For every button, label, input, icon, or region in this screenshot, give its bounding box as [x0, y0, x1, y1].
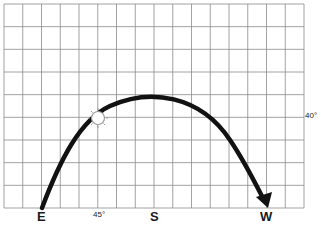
sun-icon	[88, 108, 108, 128]
sun-path-diagram	[0, 0, 321, 227]
east-label: E	[37, 209, 46, 224]
west-label: W	[260, 209, 272, 224]
south-label: S	[150, 209, 159, 224]
grid	[4, 4, 304, 208]
altitude-40-label: 40°	[305, 111, 317, 120]
sun-path-arc	[42, 97, 264, 208]
azimuth-45-label: 45°	[93, 210, 105, 219]
arrow-head-icon	[256, 192, 272, 208]
